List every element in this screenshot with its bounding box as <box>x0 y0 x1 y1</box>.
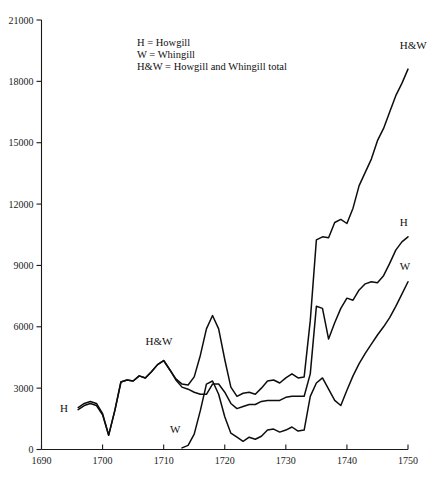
x-tick-label: 1750 <box>398 455 418 466</box>
y-tick-label: 6000 <box>14 321 34 332</box>
series-label-hw-mid: H&W <box>146 335 174 347</box>
y-tick-label: 18000 <box>9 76 34 87</box>
x-axis: 1690170017101720173017401750 <box>32 445 419 466</box>
series-label-h: H <box>400 216 408 228</box>
legend-line-howgill: H = Howgill <box>137 37 190 48</box>
x-tick-label: 1740 <box>337 455 357 466</box>
series-label-h-left: H <box>60 402 68 414</box>
series-label-w: W <box>400 260 411 272</box>
series-label-w-left: W <box>170 423 181 435</box>
series-group <box>78 69 408 448</box>
legend-line-total: H&W = Howgill and Whingill total <box>137 61 287 72</box>
y-axis: 030006000900012000150001800021000 <box>9 15 42 456</box>
y-tick-label: 9000 <box>14 260 34 271</box>
y-tick-label: 0 <box>29 444 34 455</box>
y-tick-group: 030006000900012000150001800021000 <box>9 15 42 456</box>
x-tick-label: 1700 <box>93 455 113 466</box>
series-line-h <box>78 237 408 435</box>
y-tick-label: 3000 <box>14 383 34 394</box>
legend-block: H = Howgill W = Whingill H&W = Howgill a… <box>137 37 287 72</box>
x-tick-label: 1730 <box>276 455 296 466</box>
line-chart: 030006000900012000150001800021000 169017… <box>0 0 427 479</box>
y-tick-label: 15000 <box>9 137 34 148</box>
legend-line-whingill: W = Whingill <box>137 49 195 60</box>
x-tick-group: 1690170017101720173017401750 <box>32 445 419 466</box>
y-tick-label: 21000 <box>9 15 34 26</box>
chart-container: 030006000900012000150001800021000 169017… <box>0 0 427 479</box>
series-label-handw: H&W <box>400 39 427 51</box>
series-label-group: H&WHWHWH&W <box>60 39 427 435</box>
x-tick-label: 1720 <box>215 455 235 466</box>
x-tick-label: 1690 <box>32 455 52 466</box>
x-tick-label: 1710 <box>154 455 174 466</box>
y-tick-label: 12000 <box>9 199 34 210</box>
series-line-w <box>182 282 408 448</box>
